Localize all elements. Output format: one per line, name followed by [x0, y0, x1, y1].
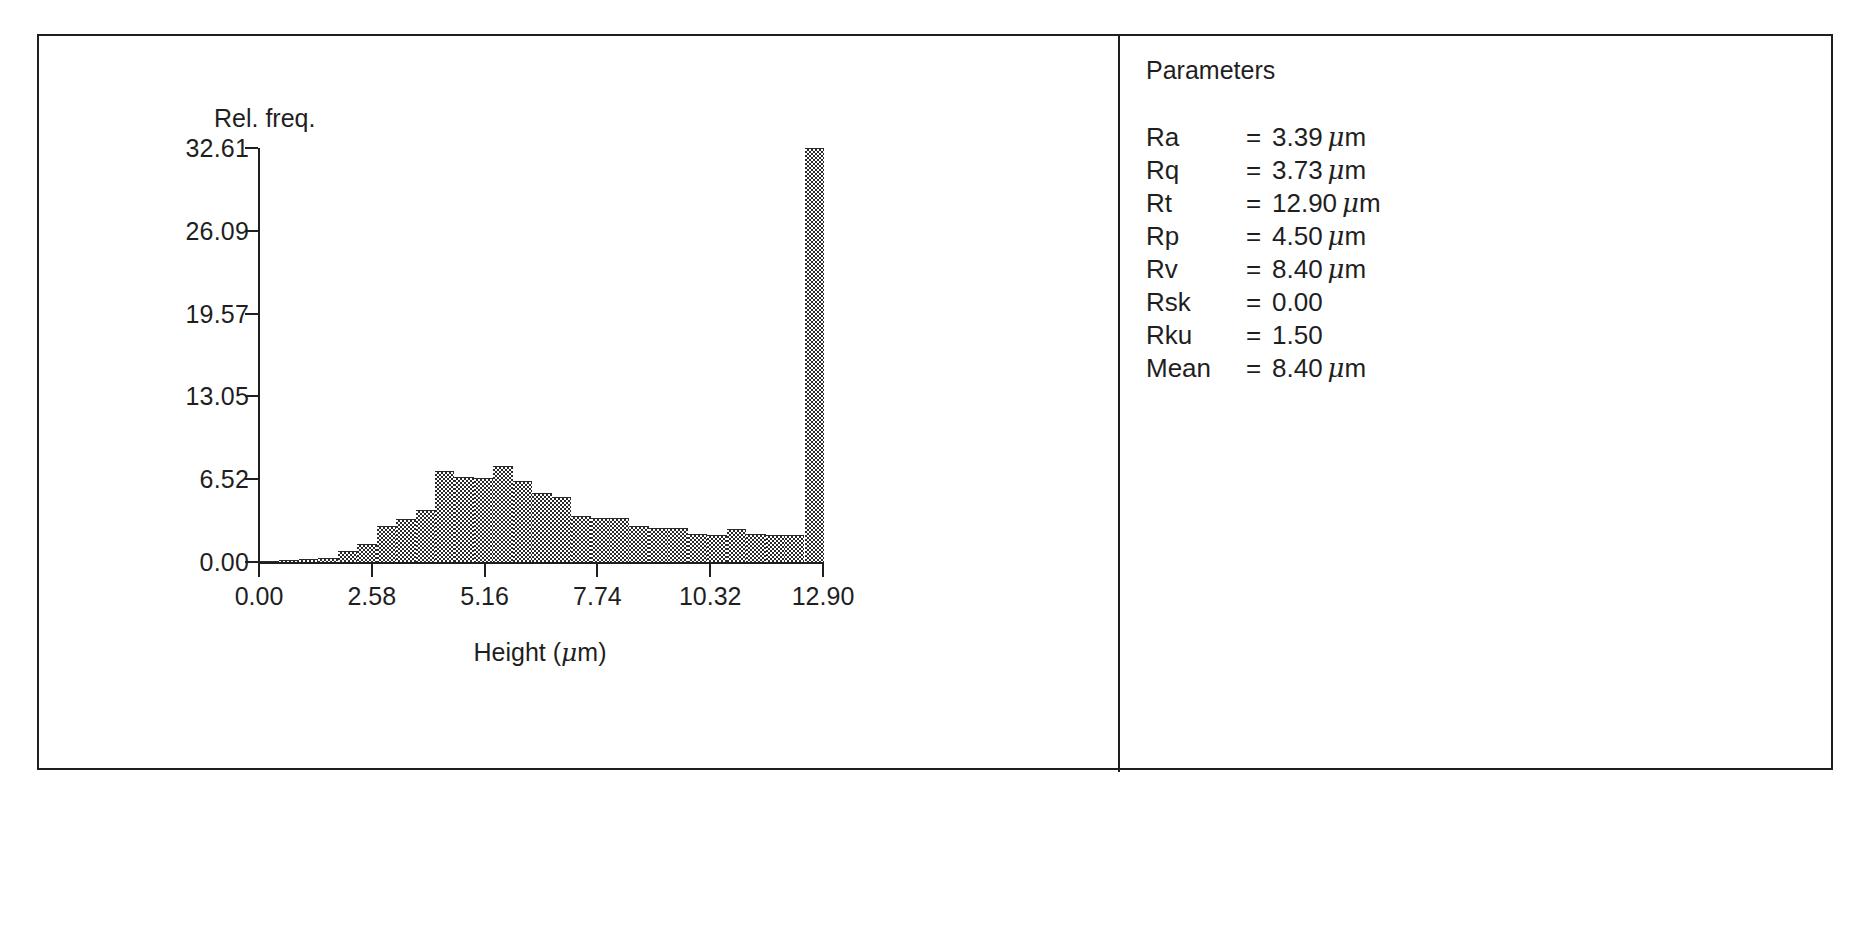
parameter-unit: μm — [1342, 188, 1381, 219]
histogram-bar — [727, 529, 746, 562]
parameter-name: Rq — [1146, 155, 1246, 186]
histogram-bar — [357, 544, 376, 562]
histogram-bar — [532, 493, 551, 562]
histogram-bar — [649, 528, 668, 562]
parameter-equals: = — [1246, 188, 1272, 219]
histogram-bar — [785, 535, 804, 562]
parameter-equals: = — [1246, 353, 1272, 384]
x-tick-label: 0.00 — [235, 582, 284, 611]
parameter-row: Rv=8.40μm — [1146, 254, 1596, 287]
x-tick-label: 12.90 — [792, 582, 855, 611]
parameter-equals: = — [1246, 155, 1272, 186]
parameter-value: 3.39 — [1272, 122, 1323, 153]
parameter-name: Rt — [1146, 188, 1246, 219]
y-tick-label: 6.52 — [200, 465, 249, 494]
parameter-equals: = — [1246, 221, 1272, 252]
mu-symbol: μ — [1328, 155, 1345, 185]
y-tick-label: 19.57 — [185, 299, 249, 328]
plot-area: Rel. freq. 0.006.5213.0519.5726.0932.61 … — [258, 148, 822, 562]
parameter-value: 0.00 — [1272, 287, 1323, 318]
mu-symbol: μ — [1328, 221, 1345, 251]
x-tick-mark — [371, 564, 373, 577]
parameter-value: 8.40 — [1272, 254, 1323, 285]
histogram-bar — [571, 516, 590, 562]
parameter-name: Rsk — [1146, 287, 1246, 318]
histogram-bar — [416, 510, 435, 562]
y-tick-label: 26.09 — [185, 216, 249, 245]
y-tick-label: 13.05 — [185, 382, 249, 411]
mu-symbol: μ — [1328, 122, 1345, 152]
histogram-bar — [396, 519, 415, 562]
histogram-bar — [688, 534, 707, 562]
parameter-name: Rv — [1146, 254, 1246, 285]
parameter-unit: μm — [1328, 221, 1367, 252]
histogram-bar — [435, 471, 454, 562]
parameter-value: 12.90 — [1272, 188, 1337, 219]
histogram-bar — [454, 477, 473, 562]
x-tick-label: 5.16 — [460, 582, 509, 611]
parameter-equals: = — [1246, 122, 1272, 153]
parameter-unit: μm — [1328, 254, 1367, 285]
histogram-bar — [338, 551, 357, 562]
parameter-name: Rp — [1146, 221, 1246, 252]
histogram-bar — [493, 466, 512, 562]
parameters-list: Ra=3.39μmRq=3.73μmRt=12.90μmRp=4.50μmRv=… — [1146, 122, 1596, 386]
x-axis-label: Height (μm) — [474, 638, 607, 667]
parameters-panel: Parameters Ra=3.39μmRq=3.73μmRt=12.90μmR… — [1120, 34, 1833, 770]
x-tick-mark — [596, 564, 598, 577]
parameter-value: 4.50 — [1272, 221, 1323, 252]
histogram-bar — [377, 526, 396, 562]
histogram-bar — [805, 148, 824, 562]
mu-symbol: μ — [561, 638, 577, 667]
histogram-bar — [279, 560, 298, 562]
x-tick-mark — [484, 564, 486, 577]
histogram-bar — [746, 534, 765, 562]
mu-symbol: μ — [1328, 254, 1345, 284]
parameter-value: 1.50 — [1272, 320, 1323, 351]
parameters-title: Parameters — [1146, 56, 1275, 85]
parameter-value: 8.40 — [1272, 353, 1323, 384]
screenshot-root: Rel. freq. 0.006.5213.0519.5726.0932.61 … — [0, 0, 1871, 951]
x-tick-label: 7.74 — [573, 582, 622, 611]
parameter-value: 3.73 — [1272, 155, 1323, 186]
y-tick-label: 0.00 — [200, 548, 249, 577]
parameter-row: Ra=3.39μm — [1146, 122, 1596, 155]
histogram-bar — [629, 526, 648, 562]
histogram-bar — [766, 535, 785, 562]
y-axis-label: Rel. freq. — [214, 104, 315, 133]
histogram-bar — [260, 561, 279, 563]
parameter-unit: μm — [1328, 353, 1367, 384]
histogram-bar — [610, 518, 629, 562]
parameter-row: Rq=3.73μm — [1146, 155, 1596, 188]
histogram-bar — [474, 478, 493, 562]
mu-symbol: μ — [1328, 353, 1345, 383]
parameter-row: Rt=12.90μm — [1146, 188, 1596, 221]
x-tick-label: 2.58 — [347, 582, 396, 611]
x-axis-line — [258, 562, 824, 564]
parameter-equals: = — [1246, 254, 1272, 285]
parameter-name: Rku — [1146, 320, 1246, 351]
parameter-equals: = — [1246, 287, 1272, 318]
histogram-bar — [707, 535, 726, 562]
y-tick-label: 32.61 — [185, 134, 249, 163]
parameter-unit: μm — [1328, 122, 1367, 153]
x-tick-mark — [258, 564, 260, 577]
histogram-bar — [591, 518, 610, 562]
parameter-row: Rsk=0.00 — [1146, 287, 1596, 320]
histogram-bar — [318, 558, 337, 562]
parameter-row: Mean=8.40μm — [1146, 353, 1596, 386]
histogram-panel: Rel. freq. 0.006.5213.0519.5726.0932.61 … — [37, 34, 1118, 770]
parameter-row: Rku=1.50 — [1146, 320, 1596, 353]
parameter-row: Rp=4.50μm — [1146, 221, 1596, 254]
parameter-name: Mean — [1146, 353, 1246, 384]
histogram-bars — [260, 148, 824, 562]
parameter-equals: = — [1246, 320, 1272, 351]
histogram-bar — [668, 528, 687, 562]
parameter-unit: μm — [1328, 155, 1367, 186]
parameter-name: Ra — [1146, 122, 1246, 153]
x-tick-mark — [709, 564, 711, 577]
x-tick-label: 10.32 — [679, 582, 742, 611]
x-tick-mark — [822, 564, 824, 577]
mu-symbol: μ — [1342, 188, 1359, 218]
histogram-bar — [299, 559, 318, 562]
